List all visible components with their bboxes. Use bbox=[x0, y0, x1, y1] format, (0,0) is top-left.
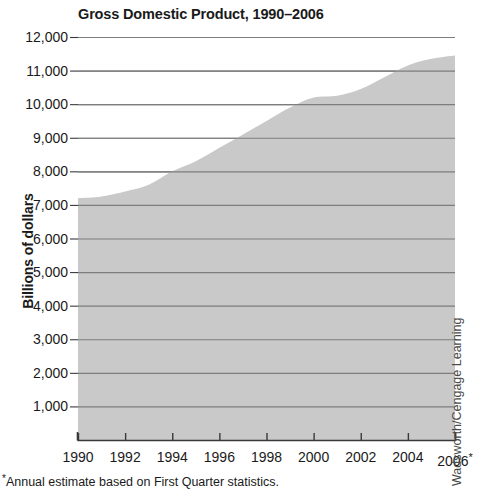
y-tick-label-4,000: 4,000 bbox=[10, 299, 68, 313]
y-axis-tick-labels: 12,00011,00010,0009,0008,0007,0006,0005,… bbox=[8, 0, 68, 496]
footnote: *Annual estimate based on First Quarter … bbox=[2, 473, 279, 489]
x-tick-label-2004: 2004 bbox=[392, 449, 423, 465]
source-credit: Wadsworth/Cengage Learning bbox=[450, 276, 464, 486]
y-tick-label-3,000: 3,000 bbox=[10, 332, 68, 346]
footnote-text: Annual estimate based on First Quarter s… bbox=[6, 475, 279, 489]
y-tick-label-9,000: 9,000 bbox=[10, 131, 68, 145]
x-tick-label-1990: 1990 bbox=[62, 449, 93, 465]
y-tick-label-6,000: 6,000 bbox=[10, 232, 68, 246]
x-tick-label-1994: 1994 bbox=[157, 449, 188, 465]
x-tick-label-2000: 2000 bbox=[298, 449, 329, 465]
y-tick-label-8,000: 8,000 bbox=[10, 164, 68, 178]
x-tick-label-1998: 1998 bbox=[251, 449, 282, 465]
y-tick-label-1,000: 1,000 bbox=[10, 399, 68, 413]
y-tick-label-5,000: 5,000 bbox=[10, 265, 68, 279]
plot-area bbox=[78, 37, 455, 440]
gdp-area-series bbox=[78, 55, 455, 440]
y-tick-label-11,000: 11,000 bbox=[10, 64, 68, 78]
x-tick-asterisk: * bbox=[468, 451, 472, 463]
chart-title: Gross Domestic Product, 1990–2006 bbox=[78, 6, 324, 22]
y-tick-label-2,000: 2,000 bbox=[10, 366, 68, 380]
x-axis-tick-labels: 199019921994199619982000200220042006* bbox=[0, 449, 496, 471]
x-tick-label-1996: 1996 bbox=[204, 449, 235, 465]
y-tick-label-12,000: 12,000 bbox=[10, 30, 68, 44]
y-tick-label-7,000: 7,000 bbox=[10, 198, 68, 212]
x-tick-label-2002: 2002 bbox=[345, 449, 376, 465]
chart-figure: Gross Domestic Product, 1990–2006 Billio… bbox=[0, 0, 496, 496]
area-chart-plot bbox=[78, 37, 455, 440]
y-tick-label-10,000: 10,000 bbox=[10, 97, 68, 111]
x-tick-label-1992: 1992 bbox=[110, 449, 141, 465]
